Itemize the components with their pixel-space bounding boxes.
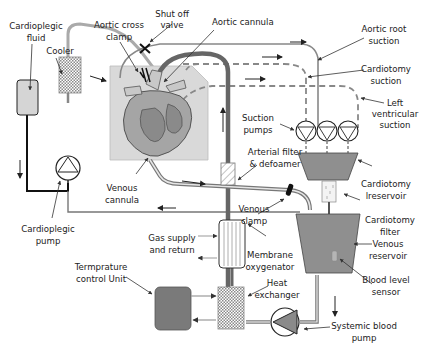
label-left-ventricular-suction: Leftventricularsuction — [372, 98, 419, 130]
cooler-icon — [59, 57, 81, 93]
cardiotomy-filter-icon — [322, 181, 336, 202]
systemic-blood-pump-icon — [271, 308, 299, 336]
label-suction-pumps: Suctionpumps — [242, 113, 274, 135]
cardioplegic-pump-icon — [56, 156, 80, 180]
label-cardioplegic-pump: Cardioplegicpump — [21, 224, 75, 246]
label-temperature-control-unit: Termpraturecontrol Unit — [74, 262, 128, 284]
suction-pump-2-icon — [317, 121, 337, 141]
label-cooler: Cooler — [46, 46, 74, 56]
label-arterial-filter: Arterial filter& defoamer — [248, 147, 303, 169]
reservoir-to-pump-line — [300, 275, 317, 322]
label-systemic-blood-pump: Systemic bloodpump — [331, 321, 397, 343]
label-shut-off-valve: Shut offvalve — [155, 9, 190, 30]
blood-level-sensor-icon — [332, 251, 337, 261]
label-membrane-oxygenator: Membraneoxygenator — [246, 250, 295, 272]
suction-pumps — [296, 121, 358, 153]
label-cardiotomy-filter: Cardiotomyfilter — [365, 215, 415, 237]
label-cardioplegic-fluid: Cardioplegicfluid — [9, 21, 63, 43]
label-gas-supply: Gas supplyand return — [148, 233, 195, 255]
label-venous-cannula: Venouscannula — [105, 183, 139, 205]
membrane-oxygenator-icon — [219, 220, 245, 268]
temperature-control-unit-icon — [155, 287, 191, 330]
label-aortic-root-suction: Aortic rootsuction — [362, 24, 408, 46]
label-venous-clamp: Venousclamp — [238, 204, 270, 226]
label-venous-reservoir: Venousreservoir — [369, 239, 408, 261]
heat-exchanger-icon — [218, 287, 244, 329]
suction-pump-3-icon — [338, 121, 358, 141]
arterial-filter-icon — [221, 163, 235, 185]
label-blood-level-sensor: Blood levelsensor — [362, 275, 409, 297]
label-cardiotomy-suction: Cardiotomysuction — [361, 64, 411, 86]
venous-reservoir-icon — [296, 214, 360, 273]
label-aortic-cannula: Aortic cannula — [212, 17, 274, 27]
label-cardiotomy-reservoir: Cardiotomylreservoir — [361, 179, 411, 201]
cardiotomy-reservoir-icon — [298, 153, 358, 180]
suction-pump-1-icon — [296, 121, 316, 141]
cardioplegic-fluid-bag — [17, 80, 38, 115]
cardiopulmonary-bypass-diagram: Cardioplegicfluid Cooler Aortic crosscla… — [0, 0, 424, 352]
